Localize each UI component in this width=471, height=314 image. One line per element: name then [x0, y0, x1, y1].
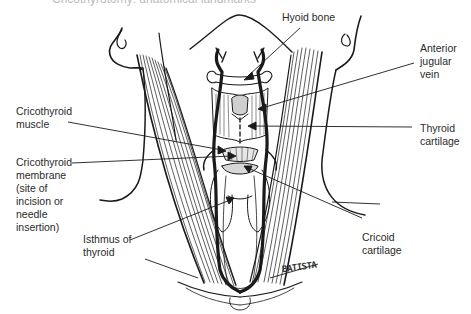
- label-thyroid-cartilage-line-1: Thyroid: [420, 122, 460, 135]
- trachea-shape: [223, 176, 257, 289]
- label-isthmus-of-thyroid: Isthmus of thyroid: [83, 233, 131, 259]
- label-cricothyroid-membrane-line-3: (site of: [16, 182, 72, 195]
- leader-anterior-jugular-vein: [262, 63, 414, 108]
- label-hyoid-bone: Hyoid bone: [282, 11, 335, 24]
- chin-outline: [190, 15, 292, 52]
- leader-cricothyroid-membrane: [72, 156, 232, 163]
- label-thyroid-cartilage-line-2: cartilage: [420, 135, 460, 148]
- label-cricothyroid-membrane-line-4: incision or: [16, 195, 72, 208]
- right-clavicle-line: [240, 282, 302, 297]
- right-neck-outline: [322, 70, 365, 215]
- label-thyroid-cartilage: Thyroid cartilage: [420, 122, 460, 148]
- label-cricothyroid-membrane-line-5: needle: [16, 208, 72, 221]
- cricoid-cartilage-shape: [222, 163, 258, 174]
- label-cricothyroid-muscle-line-2: muscle: [16, 118, 72, 131]
- left-ear-outline: [109, 28, 141, 70]
- label-cricoid-cartilage-line-2: cartilage: [362, 244, 402, 257]
- right-ear-outline: [336, 16, 361, 70]
- label-cricoid-cartilage-line-1: Cricoid: [362, 231, 402, 244]
- label-cricoid-cartilage: Cricoid cartilage: [362, 231, 402, 257]
- label-cricothyroid-muscle-line-1: Cricothyroid: [16, 105, 72, 118]
- hyoid-bone-shape: [207, 71, 272, 85]
- label-isthmus-of-thyroid-line-1: Isthmus of: [83, 233, 131, 246]
- label-anterior-jugular-vein-line-2: jugular: [420, 55, 457, 68]
- label-cricothyroid-muscle: Cricothyroid muscle: [16, 105, 72, 131]
- label-isthmus-of-thyroid-line-2: thyroid: [83, 246, 131, 259]
- label-anterior-jugular-vein-line-1: Anterior: [420, 42, 457, 55]
- label-anterior-jugular-vein: Anterior jugular vein: [420, 42, 457, 81]
- cricothyroid-membrane-shape: [222, 147, 258, 162]
- label-cricothyroid-membrane-line-2: membrane: [16, 169, 72, 182]
- label-cricothyroid-membrane-line-6: insertion): [16, 221, 72, 234]
- leader-thyroid-cartilage: [252, 126, 412, 127]
- neck-anatomy-diagram: Cricothyrotomy: anatomical landmarks: [0, 0, 471, 314]
- label-anterior-jugular-vein-line-3: vein: [420, 68, 457, 81]
- label-cricothyroid-membrane: Cricothyroid membrane (site of incision …: [16, 156, 72, 234]
- label-cricothyroid-membrane-line-1: Cricothyroid: [16, 156, 72, 169]
- label-hyoid-bone-line-1: Hyoid bone: [282, 11, 335, 24]
